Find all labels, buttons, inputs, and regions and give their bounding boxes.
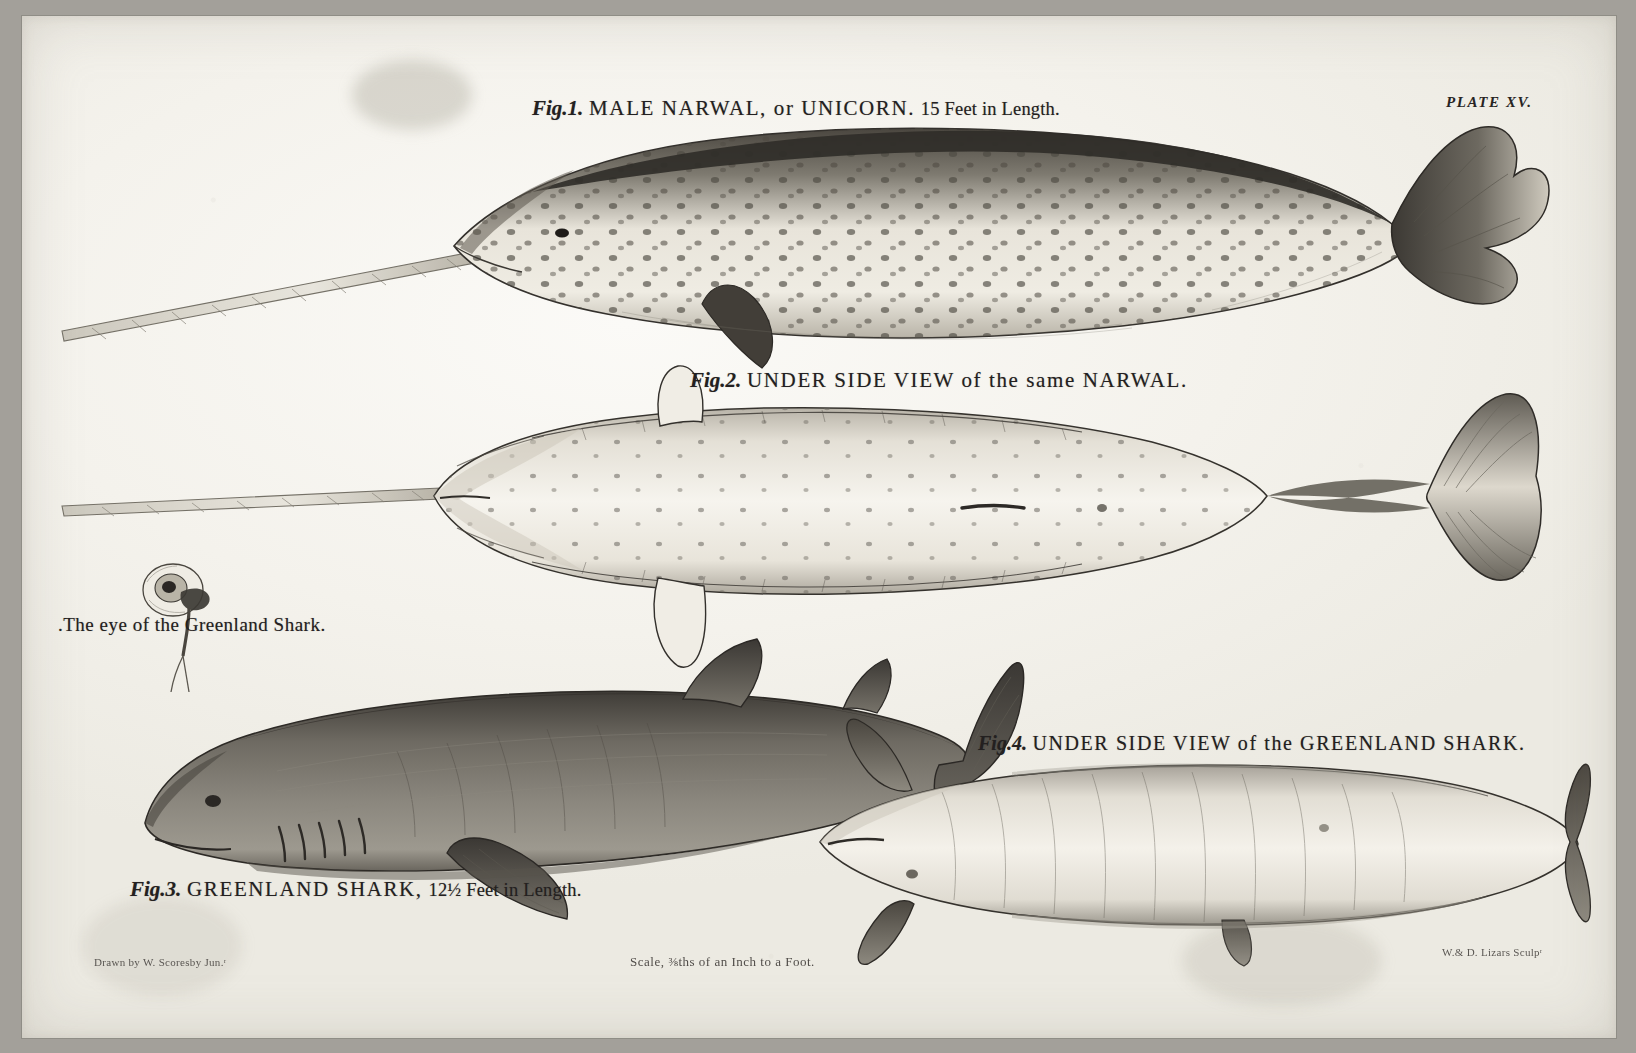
figure-4-title: UNDER SIDE VIEW of the GREENLAND SHARK. bbox=[1032, 732, 1525, 754]
figure-2-caption: Fig.2. UNDER SIDE VIEW of the same NARWA… bbox=[690, 368, 1188, 393]
figure-3-label: Fig.3. bbox=[130, 877, 181, 901]
figure-4-caption: Fig.4. UNDER SIDE VIEW of the GREENLAND … bbox=[978, 732, 1526, 755]
shark-body-ventral bbox=[820, 765, 1578, 925]
figure-3-title: GREENLAND SHARK, bbox=[187, 877, 423, 901]
figure-4-label: Fig.4. bbox=[978, 732, 1027, 754]
figure-1-title: MALE NARWAL, or UNICORN. bbox=[589, 96, 915, 120]
plate-paper: PLATE XV. bbox=[22, 16, 1616, 1038]
eye-detail-caption: .The eye of the Greenland Shark. bbox=[58, 614, 326, 636]
engraver-credit: W.& D. Lizars Sculpʳ bbox=[1442, 946, 1543, 958]
figure-2-label: Fig.2. bbox=[690, 368, 741, 392]
shark-nostril bbox=[906, 870, 918, 879]
narwhal-tusk-ventral bbox=[62, 488, 441, 516]
figure-2-title: UNDER SIDE VIEW of the same NARWAL. bbox=[747, 368, 1188, 392]
scale-note: Scale, ⅜ths of an Inch to a Foot. bbox=[630, 954, 815, 970]
artist-credit: Drawn by W. Scoresby Jun.ʳ bbox=[94, 956, 226, 968]
engraving-plate: PLATE XV. bbox=[0, 0, 1636, 1053]
shark-dorsal-fin-2 bbox=[843, 659, 891, 713]
shark-eye bbox=[205, 795, 221, 807]
figure-3-measurement: 12½ Feet in Length. bbox=[428, 880, 581, 900]
figure-1-measurement: 15 Feet in Length. bbox=[921, 99, 1060, 119]
figure-1-label: Fig.1. bbox=[532, 96, 583, 120]
figure-3-caption: Fig.3. GREENLAND SHARK, 12½ Feet in Leng… bbox=[130, 877, 582, 902]
shark-pectoral-ventral-upper bbox=[847, 719, 912, 791]
narwhal-tusk bbox=[62, 251, 480, 341]
narwhal-tail-stock bbox=[1267, 480, 1430, 513]
narwhal-fluke-ventral bbox=[1427, 394, 1541, 581]
shark-pectoral-ventral-lower bbox=[858, 901, 914, 965]
narwhal-tail-fluke bbox=[1392, 127, 1549, 304]
eye-pupil bbox=[162, 581, 176, 593]
figure-1-illustration bbox=[62, 96, 1542, 356]
narwhal-eye bbox=[555, 229, 569, 238]
shark-cloaca bbox=[1319, 824, 1329, 832]
figure-1-caption: Fig.1. MALE NARWAL, or UNICORN. 15 Feet … bbox=[532, 96, 1060, 121]
navel-mark bbox=[1097, 504, 1107, 512]
